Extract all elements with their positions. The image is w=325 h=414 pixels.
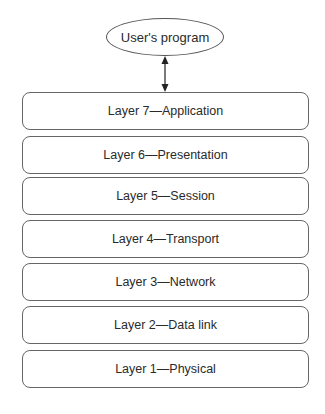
users-program-node: User's program bbox=[106, 18, 224, 56]
layer-3-network: Layer 3—Network bbox=[22, 263, 309, 301]
layer-5-session: Layer 5—Session bbox=[22, 177, 309, 215]
users-program-label: User's program bbox=[121, 30, 209, 45]
layer-label: Layer 1—Physical bbox=[115, 362, 216, 376]
layer-7-application: Layer 7—Application bbox=[22, 92, 309, 130]
layer-label: Layer 5—Session bbox=[116, 189, 215, 203]
layer-4-transport: Layer 4—Transport bbox=[22, 220, 309, 258]
layer-6-presentation: Layer 6—Presentation bbox=[22, 136, 309, 174]
layer-1-physical: Layer 1—Physical bbox=[22, 350, 309, 388]
bidirectional-arrow-icon bbox=[158, 55, 172, 93]
layer-label: Layer 2—Data link bbox=[114, 318, 217, 332]
layer-2-data-link: Layer 2—Data link bbox=[22, 306, 309, 344]
layer-label: Layer 4—Transport bbox=[112, 232, 219, 246]
layer-label: Layer 6—Presentation bbox=[103, 148, 227, 162]
layer-label: Layer 3—Network bbox=[115, 275, 215, 289]
layer-label: Layer 7—Application bbox=[108, 104, 223, 118]
